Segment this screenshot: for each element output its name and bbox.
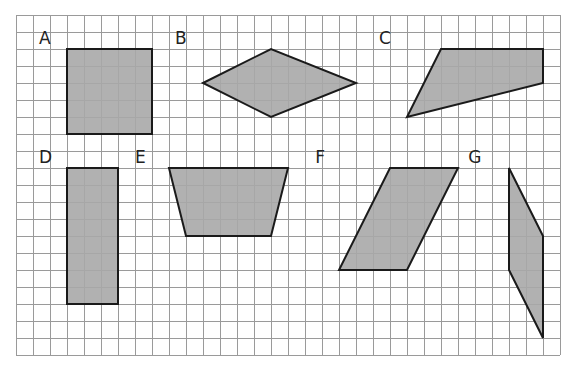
shape-label-g: G [468,147,481,167]
shape-label-b: B [175,28,187,48]
shape-label-a: A [39,28,51,48]
shape-e-trapezoid [169,168,288,236]
shape-b-rhombus [203,49,356,117]
shape-label-d: D [39,147,52,167]
shapes-grid-diagram: ABCDEFG [0,0,575,372]
shape-a-square [67,49,152,134]
shape-d-rectangle [67,168,118,304]
shape-label-f: F [315,147,325,167]
shape-label-c: C [379,28,391,48]
shape-label-e: E [135,147,146,167]
